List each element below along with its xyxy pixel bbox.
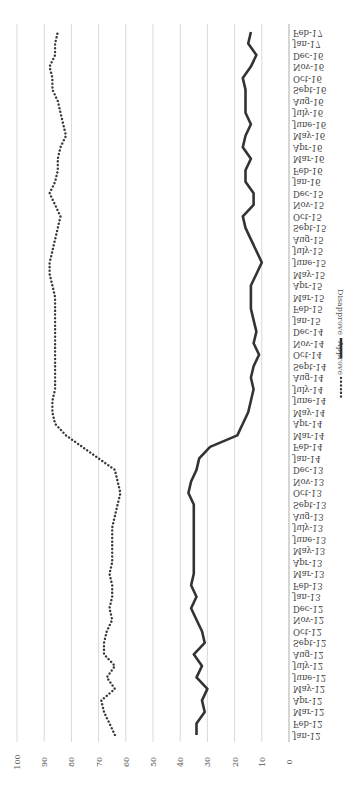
date-tick-label: Apr-15 — [292, 281, 322, 291]
date-tick-label: Jan-13 — [292, 592, 321, 602]
date-tick-label: Sept-15 — [293, 223, 326, 233]
date-tick-label: Aug-13 — [292, 512, 324, 522]
date-tick-label: Nov-13 — [293, 477, 324, 487]
date-tick-label: Apr-12 — [292, 696, 322, 706]
date-tick-label: Mar-12 — [293, 707, 325, 717]
date-tick-label: Mar-16 — [293, 154, 325, 164]
series-lines — [50, 32, 262, 735]
date-tick-label: Oct-13 — [293, 488, 322, 498]
approve-series-line — [50, 32, 121, 735]
date-tick-label: Dec-14 — [293, 327, 323, 337]
value-tick-label: 60 — [122, 757, 131, 767]
value-axis-ticks: 0102030405060708090100 — [13, 754, 294, 769]
date-tick-label: May-16 — [293, 131, 325, 141]
date-tick-label: Nov-15 — [293, 200, 324, 210]
date-tick-label: Sept-14 — [293, 362, 326, 372]
date-tick-label: May-14 — [293, 408, 325, 418]
date-tick-label: Aug-16 — [292, 97, 324, 107]
date-tick-label: July-13 — [292, 523, 323, 533]
approval-line-chart: 0102030405060708090100 Jan-12Feb-12Mar-1… — [0, 0, 358, 792]
value-tick-label: 0 — [285, 759, 294, 764]
date-tick-label: Jan-12 — [292, 731, 321, 741]
date-tick-label: Sept-12 — [293, 638, 326, 648]
value-tick-label: 40 — [176, 757, 185, 767]
date-tick-label: Jan-17 — [292, 39, 321, 49]
date-tick-label: Mar-15 — [293, 293, 325, 303]
date-tick-label: June-12 — [292, 673, 326, 683]
date-tick-label: Mar-14 — [293, 431, 325, 441]
date-tick-label: Nov-16 — [293, 62, 324, 72]
value-tick-label: 30 — [203, 757, 212, 767]
date-axis-labels: Jan-12Feb-12Mar-12Apr-12May-12June-12Jul… — [292, 28, 326, 741]
date-tick-label: Apr-16 — [292, 143, 322, 153]
date-tick-label: July-15 — [292, 246, 323, 256]
value-tick-label: 20 — [231, 757, 240, 767]
value-tick-label: 50 — [149, 757, 158, 767]
date-tick-label: Nov-14 — [293, 339, 324, 349]
date-tick-label: July-16 — [292, 108, 323, 118]
date-tick-label: Sept-13 — [293, 500, 326, 510]
date-tick-label: Feb-16 — [293, 166, 323, 176]
date-tick-label: Aug-15 — [292, 235, 324, 245]
date-tick-label: Oct-12 — [293, 627, 322, 637]
date-tick-label: June-15 — [292, 258, 326, 268]
date-tick-label: Feb-14 — [293, 442, 323, 452]
date-tick-label: Oct-14 — [293, 350, 322, 360]
date-tick-label: Jan-14 — [292, 454, 321, 464]
date-tick-label: Oct-16 — [293, 74, 322, 84]
value-tick-label: 100 — [13, 754, 22, 769]
disapprove-series-line — [188, 32, 261, 735]
date-tick-label: Feb-15 — [293, 304, 323, 314]
date-tick-label: Aug-14 — [292, 373, 324, 383]
date-tick-label: May-13 — [293, 546, 325, 556]
value-tick-label: 10 — [258, 757, 267, 767]
date-tick-label: Dec-12 — [293, 604, 323, 614]
date-tick-label: Oct-15 — [293, 212, 322, 222]
date-tick-label: May-12 — [293, 684, 325, 694]
legend: Approve Disapprove — [336, 289, 345, 398]
date-tick-label: Feb-13 — [293, 581, 323, 591]
value-tick-label: 90 — [40, 757, 49, 767]
date-tick-label: Dec-13 — [293, 465, 323, 475]
value-tick-label: 70 — [95, 757, 104, 767]
date-tick-label: Feb-17 — [293, 28, 323, 38]
date-tick-label: Mar-13 — [293, 569, 325, 579]
date-tick-label: Sept-16 — [293, 85, 326, 95]
date-tick-label: May-15 — [293, 270, 325, 280]
date-tick-label: June-13 — [292, 535, 326, 545]
date-tick-label: Nov-12 — [293, 615, 324, 625]
date-tick-label: Apr-13 — [292, 558, 322, 568]
date-tick-label: Dec-15 — [293, 189, 323, 199]
date-tick-label: Dec-16 — [293, 51, 323, 61]
date-tick-label: Feb-12 — [293, 719, 323, 729]
date-tick-label: Apr-14 — [292, 419, 322, 429]
date-tick-label: Jan-15 — [292, 316, 321, 326]
date-tick-label: Jan-16 — [292, 177, 321, 187]
date-tick-label: July-14 — [292, 385, 323, 395]
date-tick-label: Aug-12 — [292, 650, 324, 660]
legend-label-disapprove: Disapprove — [336, 289, 345, 335]
date-tick-label: June-16 — [292, 120, 326, 130]
date-tick-label: July-12 — [292, 661, 323, 671]
value-tick-label: 80 — [67, 757, 76, 767]
date-tick-label: June-14 — [292, 396, 326, 406]
